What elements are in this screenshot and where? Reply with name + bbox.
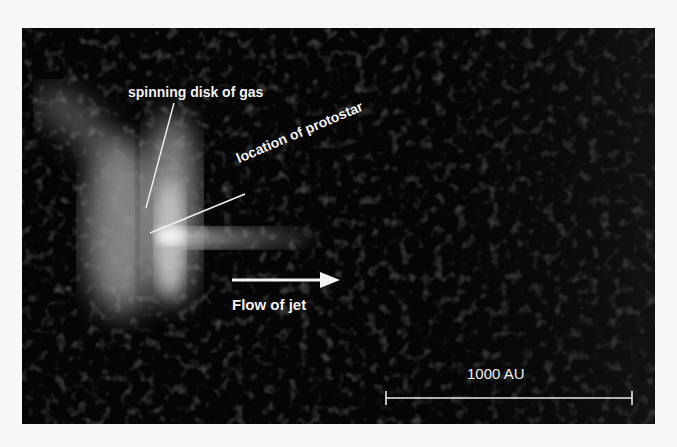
scale-bar: [386, 391, 632, 405]
scale-bar-label: 1000 AU: [467, 365, 525, 382]
astronomy-image: spinning disk of gas location of protost…: [22, 28, 655, 424]
jet-arrow-icon: [232, 272, 342, 288]
jet-label: Flow of jet: [232, 296, 306, 313]
nebula-render: [22, 28, 655, 424]
disk-label: spinning disk of gas: [128, 84, 263, 100]
